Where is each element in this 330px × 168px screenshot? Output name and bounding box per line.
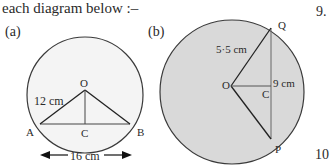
radius-label-a: 12 cm <box>34 95 64 107</box>
point-o-b: O <box>222 80 230 91</box>
question-number-9: 9. <box>316 5 327 19</box>
question-number-10: 10 <box>315 148 329 162</box>
diagram-b <box>160 20 304 164</box>
radius-label-b: 5·5 cm <box>216 44 247 55</box>
point-a: A <box>26 127 34 138</box>
diagram-b-label: (b) <box>148 25 164 39</box>
point-c-a: C <box>81 128 88 139</box>
point-o-a: O <box>80 78 88 89</box>
point-c-b: C <box>262 89 269 100</box>
point-p: P <box>275 144 281 155</box>
point-b: B <box>137 127 144 138</box>
diagram-a-label: (a) <box>5 25 21 39</box>
chord-label-a: 16 cm <box>70 150 100 162</box>
circle-b <box>160 20 304 164</box>
point-q: Q <box>278 20 286 31</box>
chord-label-b: 9 cm <box>273 78 295 89</box>
arrow-right-icon <box>122 151 132 159</box>
arrow-left-icon <box>40 151 50 159</box>
